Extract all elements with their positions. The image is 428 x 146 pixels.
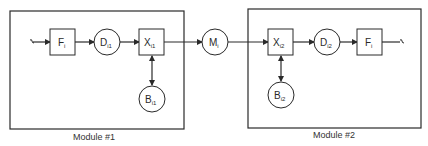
module-1-label: Module #1 <box>73 132 115 142</box>
node-d2: Di2 <box>314 29 340 55</box>
node-b1: Bi1 <box>139 86 165 112</box>
node-f2: Fi <box>357 29 382 55</box>
node-d1: Di1 <box>94 29 120 55</box>
pipeline-diagram: Fi Di1 Xi1 Bi1 Mi Xi2 Bi2 Di2 <box>0 0 428 146</box>
module-2-label: Module #2 <box>313 130 355 140</box>
node-b2: Bi2 <box>268 82 294 108</box>
node-x2: Xi2 <box>268 29 293 55</box>
output-tilde-icon <box>400 40 404 43</box>
svg-text:Mi: Mi <box>209 37 219 49</box>
node-m: Mi <box>202 29 228 55</box>
node-f1: Fi <box>50 29 75 55</box>
node-x1: Xi1 <box>139 29 164 55</box>
module-2-box <box>248 9 421 128</box>
